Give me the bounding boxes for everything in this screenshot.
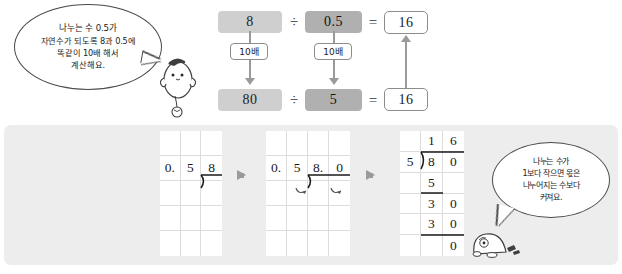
equation-divisor-bottom-value: 5 — [330, 92, 338, 108]
long-division-step-2-grid: 0.58.0 — [266, 131, 350, 256]
hint-bubble-bottom-line-4: 커져요. — [540, 192, 563, 204]
grid-cell: 0. — [160, 156, 181, 181]
equation-operator-top: ÷ — [284, 11, 304, 33]
hint-bubble-top-line-1: 나누는 수 0.5가 — [59, 22, 116, 34]
grid-cell-value: 5 — [407, 155, 414, 169]
grid-cell — [160, 181, 181, 206]
grid-cell-value: 1 — [428, 134, 435, 148]
grid-cell — [181, 206, 202, 231]
dividend-transform-label: 10배 — [230, 43, 268, 60]
equation-equals-bottom: = — [364, 89, 382, 111]
grid-cell — [308, 231, 329, 256]
long-division-step-3-grid: 16580530300 — [400, 131, 464, 256]
grid-cell-value: 5 — [428, 176, 435, 190]
grid-cell-value: 0 — [450, 239, 457, 253]
grid-cell: 3 — [421, 194, 442, 215]
grid-cell-value: 0. — [165, 161, 175, 175]
grid-cell: 0 — [443, 194, 464, 215]
grid-cell: 8 — [201, 156, 222, 181]
grid-cell — [287, 231, 308, 256]
grid-cell: 5 — [421, 173, 442, 194]
grid-cell — [160, 206, 181, 231]
equation-operator-bottom: ÷ — [284, 89, 304, 111]
grid-cell-value: 8 — [428, 155, 435, 169]
hint-bubble-top-line-3: 똑같이 10배 해서 — [57, 47, 119, 59]
grid-cell — [181, 131, 202, 156]
grid-cell — [266, 231, 287, 256]
equation-dividend-bottom: 80 — [218, 89, 282, 111]
divisor-transform-label: 10배 — [314, 43, 352, 60]
hint-bubble-top-line-4: 계산해요. — [71, 59, 105, 71]
grid-cell: 5 — [287, 156, 308, 181]
grid-cell — [400, 235, 421, 256]
grid-cell — [201, 206, 222, 231]
grid-cell: 6 — [443, 131, 464, 152]
dividend-transform-arrowhead — [245, 78, 255, 85]
grid-cell: 5 — [400, 152, 421, 173]
hint-bubble-bottom-line-2: 1보다 작으면 몫은 — [522, 168, 579, 180]
result-link-line — [405, 40, 407, 88]
hint-bubble-top: 나누는 수 0.5가 자연수가 되도록 8과 0.5에 똑같이 10배 해서 계… — [14, 4, 162, 90]
grid-cell-value: 0 — [336, 161, 343, 175]
grid-cell-value: 3 — [428, 217, 435, 231]
grid-cell-value: 0 — [450, 217, 457, 231]
grid-cell — [308, 181, 329, 206]
grid-cell: 8. — [308, 156, 329, 181]
step-arrow-2 — [366, 170, 375, 180]
grid-cell — [287, 181, 308, 206]
grid-cell — [421, 235, 442, 256]
equation-result-top: 16 — [384, 11, 428, 34]
hint-bubble-bottom-line-1: 나누는 수가 — [533, 156, 569, 168]
grid-cell — [329, 131, 350, 156]
grid-cell-value: 0 — [450, 155, 457, 169]
grid-cell: 8 — [421, 152, 442, 173]
grid-cell-value: 6 — [450, 134, 457, 148]
equation-divisor-top: 0.5 — [305, 11, 362, 33]
equation-divisor-top-value: 0.5 — [324, 14, 343, 30]
grid-cell: 5 — [181, 156, 202, 181]
result-link-arrowhead — [401, 35, 411, 42]
equation-dividend-top-value: 8 — [246, 14, 254, 30]
grid-cell — [308, 131, 329, 156]
grid-cell — [181, 181, 202, 206]
equation-divisor-bottom: 5 — [305, 89, 362, 111]
grid-cell: 0 — [443, 235, 464, 256]
grid-cell — [160, 131, 181, 156]
grid-cell — [201, 231, 222, 256]
grid-cell: 0 — [443, 214, 464, 235]
worksheet-stage: 나누는 수 0.5가 자연수가 되도록 8과 0.5에 똑같이 10배 해서 계… — [0, 0, 622, 274]
seal-mascot-icon — [466, 226, 520, 258]
step-arrow-1 — [237, 170, 246, 180]
grid-cell — [329, 231, 350, 256]
hint-bubble-top-line-2: 자연수가 되도록 8과 0.5에 — [41, 35, 136, 47]
bird-mascot-icon — [155, 54, 201, 122]
grid-cell — [160, 231, 181, 256]
grid-cell — [400, 194, 421, 215]
grid-cell — [443, 173, 464, 194]
grid-cell — [266, 206, 287, 231]
grid-cell — [266, 181, 287, 206]
grid-cell-value: 5 — [187, 161, 194, 175]
grid-cell — [201, 131, 222, 156]
grid-cell-value: 0. — [271, 161, 281, 175]
equation-dividend-top: 8 — [218, 11, 282, 33]
grid-cell — [201, 181, 222, 206]
grid-cell — [400, 214, 421, 235]
grid-cell — [287, 206, 308, 231]
grid-cell: 3 — [421, 214, 442, 235]
grid-cell — [329, 181, 350, 206]
grid-cell: 0 — [329, 156, 350, 181]
grid-cell — [181, 231, 202, 256]
grid-cell-value: 0 — [450, 197, 457, 211]
grid-cell — [287, 131, 308, 156]
grid-cell — [308, 206, 329, 231]
grid-cell — [266, 131, 287, 156]
hint-bubble-bottom-line-3: 나누어지는 수보다 — [523, 180, 580, 192]
grid-cell — [400, 173, 421, 194]
grid-cell: 0. — [266, 156, 287, 181]
grid-cell — [400, 131, 421, 152]
grid-cell: 1 — [421, 131, 442, 152]
grid-cell — [329, 206, 350, 231]
grid-cell: 0 — [443, 152, 464, 173]
grid-cell-value: 5 — [294, 161, 301, 175]
